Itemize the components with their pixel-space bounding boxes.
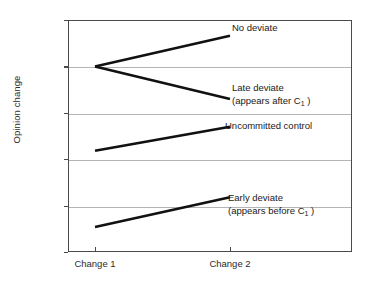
series-label-late-deviate: Late deviate (appears after C1 ) (232, 82, 310, 108)
line-early-deviate (95, 197, 230, 227)
x-tick-mark-change-2 (230, 247, 231, 252)
series-label-early-deviate-text: Early deviate (228, 192, 314, 205)
series-label-uncommitted-control-text: Uncommitted control (225, 120, 312, 131)
x-tick-label-change-2: Change 2 (185, 258, 275, 269)
series-label-no-deviate-text: No deviate (232, 22, 277, 33)
opinion-change-line-chart: Opinion change 2.5 2.0 1.5 1.0 0.5 0 No … (0, 0, 374, 285)
y-tick-mark-0 (64, 252, 68, 253)
series-label-late-deviate-text: Late deviate (232, 82, 310, 95)
line-no-deviate (95, 36, 230, 67)
series-label-early-deviate-detail: (appears before C1 ) (228, 205, 314, 219)
series-label-no-deviate: No deviate (232, 22, 277, 35)
series-label-late-deviate-detail: (appears after C1 ) (232, 95, 310, 109)
series-label-early-deviate: Early deviate (appears before C1 ) (228, 192, 314, 218)
series-label-uncommitted-control: Uncommitted control (225, 120, 312, 133)
line-late-deviate (95, 66, 230, 99)
subscript-c1: 1 (301, 100, 305, 107)
line-uncommitted-control (95, 127, 230, 151)
x-tick-mark-change-1 (95, 247, 96, 252)
y-axis-title: Opinion change (11, 50, 22, 170)
subscript-c1: 1 (305, 210, 309, 217)
x-tick-label-change-1: Change 1 (50, 258, 140, 269)
